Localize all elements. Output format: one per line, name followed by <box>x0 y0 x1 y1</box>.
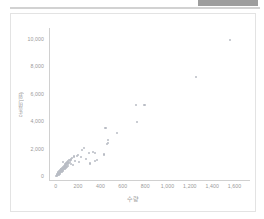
data-point[interactable] <box>88 152 90 154</box>
data-point[interactable] <box>103 153 105 155</box>
data-point[interactable] <box>104 127 106 129</box>
x-axis-line <box>49 180 250 181</box>
x-tick-label: 1,200 <box>183 183 196 189</box>
data-point[interactable] <box>96 159 98 161</box>
y-axis-title: 운송비(원) <box>17 92 24 117</box>
x-tick-label: 600 <box>118 183 127 189</box>
data-point[interactable] <box>85 158 87 160</box>
y-tick-label: 4,000 <box>31 118 49 124</box>
data-point[interactable] <box>107 139 109 141</box>
data-point[interactable] <box>89 162 91 164</box>
header-strip <box>0 0 264 12</box>
x-tick-label: 1,600 <box>228 183 241 189</box>
data-point[interactable] <box>135 104 137 106</box>
data-point[interactable] <box>136 121 138 123</box>
x-tick-label: 1,000 <box>161 183 174 189</box>
data-point[interactable] <box>81 149 83 151</box>
x-tick-label: 1,400 <box>205 183 218 189</box>
y-tick-label: 6,000 <box>31 91 49 97</box>
data-point[interactable] <box>74 160 76 162</box>
x-tick-label: 800 <box>141 183 150 189</box>
scatter-plot-area[interactable] <box>49 28 248 180</box>
data-point[interactable] <box>143 104 145 106</box>
x-axis-title: 수량 <box>11 194 255 203</box>
chart-container[interactable]: 02,0004,0006,0008,00010,000 020040060080… <box>10 13 256 212</box>
redacted-label-block <box>198 0 258 6</box>
data-point[interactable] <box>195 76 197 78</box>
data-point[interactable] <box>116 132 118 134</box>
data-point[interactable] <box>80 156 82 158</box>
y-tick-label: 2,000 <box>31 146 49 152</box>
y-tick-label: 0 <box>41 173 49 179</box>
data-point[interactable] <box>62 161 64 163</box>
data-point[interactable] <box>229 39 231 41</box>
y-tick-label: 8,000 <box>31 63 49 69</box>
x-tick-label: 0 <box>54 183 57 189</box>
x-tick-label: 200 <box>74 183 83 189</box>
data-point[interactable] <box>76 155 78 157</box>
header-divider <box>10 7 260 9</box>
data-point[interactable] <box>78 161 80 163</box>
y-tick-label: 10,000 <box>28 36 49 42</box>
data-point[interactable] <box>94 152 96 154</box>
data-point[interactable] <box>94 160 96 162</box>
data-point[interactable] <box>72 164 74 166</box>
x-tick-label: 400 <box>96 183 105 189</box>
